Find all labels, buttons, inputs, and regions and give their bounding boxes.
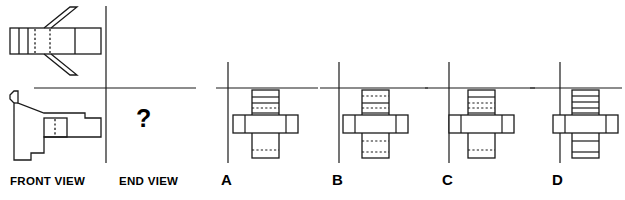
question-mark: ? — [136, 106, 151, 131]
end-view-hidden-lines — [35, 29, 50, 53]
option-d-horizontal-bar — [553, 115, 618, 133]
option-c-graphic[interactable] — [425, 62, 535, 163]
option-label-d[interactable]: D — [552, 172, 563, 187]
end-view-top-shape — [10, 7, 101, 75]
option-label-b[interactable]: B — [332, 172, 343, 187]
option-b-graphic[interactable] — [320, 62, 428, 163]
front-view-label: FRONT VIEW — [10, 176, 85, 188]
end-view-label: END VIEW — [119, 176, 178, 188]
option-label-a[interactable]: A — [221, 172, 232, 187]
figure-canvas: FRONT VIEW END VIEW ? A B C D — [0, 0, 625, 200]
technical-drawing-svg — [0, 0, 625, 200]
prompt-axis-lines — [34, 6, 196, 163]
option-label-c[interactable]: C — [442, 172, 453, 187]
option-a-graphic[interactable] — [216, 62, 318, 163]
option-a-horizontal-bar — [233, 115, 298, 133]
option-b-horizontal-bar — [343, 115, 408, 133]
option-c-horizontal-bar — [449, 115, 514, 133]
option-d-graphic[interactable] — [530, 62, 622, 163]
